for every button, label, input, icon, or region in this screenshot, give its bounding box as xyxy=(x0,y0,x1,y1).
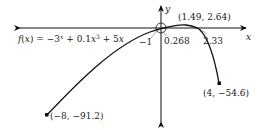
root-neg1-label: −1 xyxy=(139,37,152,47)
x-axis-label: x xyxy=(246,32,251,42)
left-endpoint-label: (−8, −91.2) xyxy=(50,111,104,121)
function-label: f(x) = −3x + 0.1x3 + 5x xyxy=(17,33,124,44)
right-endpoint-marker xyxy=(218,82,222,86)
left-endpoint-marker xyxy=(45,113,49,117)
function-graph: f(x) = −3x + 0.1x3 + 5x y x −1 0.268 2.3… xyxy=(0,0,257,130)
root-233-label: 2.33 xyxy=(203,36,223,46)
max-point-label: (1.49, 2.64) xyxy=(178,12,231,22)
root-0268-label: 0.268 xyxy=(164,36,190,46)
right-endpoint-label: (4, −54.6) xyxy=(203,88,249,98)
y-axis-label: y xyxy=(164,4,171,14)
